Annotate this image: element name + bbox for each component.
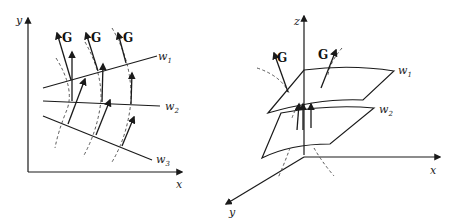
flow-line	[55, 58, 69, 148]
z-axis-label: z	[293, 15, 300, 28]
surface-label-w1: w1	[398, 64, 412, 79]
left-diagram: y x w1 w2 w3 G G G	[15, 14, 183, 191]
vector-label-G: G	[91, 31, 101, 45]
right-diagram: z x y w1 w2 G G	[226, 15, 440, 219]
curve-label-w3: w3	[156, 153, 170, 168]
gradient-vector	[68, 79, 85, 124]
y-axis	[226, 157, 304, 204]
y-axis-label: y	[228, 206, 236, 219]
x-axis-label: x	[176, 178, 183, 191]
diagram-canvas: y x w1 w2 w3 G G G z x y	[0, 0, 454, 222]
vector-label-G: G	[123, 31, 133, 45]
gradient-vector	[297, 104, 299, 130]
gradient-vector	[122, 117, 134, 146]
flow-line	[314, 148, 334, 176]
vector-label-G: G	[62, 31, 72, 45]
level-curve-w3	[43, 116, 152, 160]
flow-line	[278, 148, 290, 178]
y-axis-label: y	[15, 14, 23, 27]
gradient-vector	[131, 73, 132, 104]
x-axis-label: x	[430, 164, 437, 177]
vector-label-G: G	[318, 48, 328, 62]
flow-line	[83, 42, 101, 157]
curve-label-w2: w2	[165, 100, 179, 115]
curve-label-w1: w1	[158, 50, 172, 65]
surface-label-w2: w2	[379, 103, 393, 118]
gradient-vector	[102, 64, 103, 102]
vector-label-G: G	[277, 51, 287, 65]
level-surface-w2	[262, 107, 374, 158]
flow-line	[257, 68, 290, 95]
